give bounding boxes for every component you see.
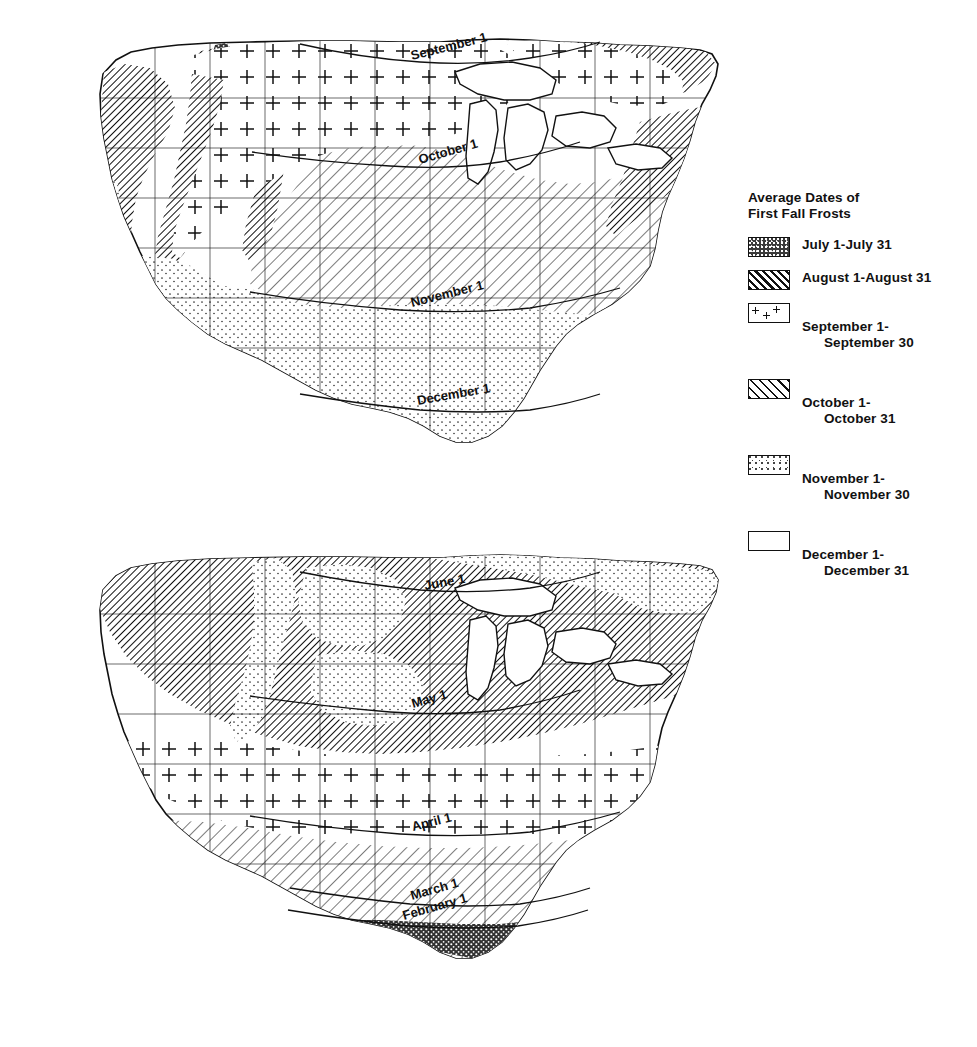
spring-map-regions — [80, 548, 740, 1028]
legend-label: September 1- September 30 — [802, 302, 914, 367]
legend-label-line2: October 31 — [802, 411, 896, 427]
legend-label-line1: October 1- — [802, 395, 871, 410]
legend-label-line1: November 1- — [802, 471, 885, 486]
legend-label-line2: September 30 — [802, 335, 914, 351]
swatch-september-pattern-icon — [748, 303, 790, 323]
legend-label: August 1-August 31 — [802, 269, 931, 286]
legend-item-september: September 1- September 30 — [748, 302, 977, 367]
legend-item-july: July 1-July 31 — [748, 236, 977, 258]
spring-frost-map-panel: June 1 May 1 April 1 March 1 February 1 … — [0, 528, 977, 1028]
legend-label: October 1- October 31 — [802, 378, 896, 443]
swatch-november-pattern-icon — [748, 455, 790, 475]
frost-maps-page: September 1 October 1 November 1 Decembe… — [0, 0, 977, 1047]
legend-label-line1: September 1- — [802, 319, 889, 334]
legend-label: July 1-July 31 — [802, 236, 892, 253]
legend-item-october: October 1- October 31 — [748, 378, 977, 443]
spring-frost-map: June 1 May 1 April 1 March 1 February 1 — [0, 528, 740, 1028]
legend-label: November 1- November 30 — [802, 454, 910, 519]
legend-item-august: August 1-August 31 — [748, 269, 977, 291]
swatch-october-pattern-icon — [748, 379, 790, 399]
fall-frost-map-panel: September 1 October 1 November 1 Decembe… — [0, 12, 977, 512]
fall-map-regions — [60, 39, 740, 512]
region-november-westcoast — [88, 176, 120, 282]
swatch-august-pattern-icon — [748, 270, 790, 290]
swatch-july-pattern-icon — [748, 237, 790, 257]
fall-frost-map: September 1 October 1 November 1 Decembe… — [0, 12, 740, 512]
legend-label-line2: November 30 — [802, 487, 910, 503]
legend-item-november: November 1- November 30 — [748, 454, 977, 519]
legend-title: Average Dates of First Fall Frosts — [748, 190, 977, 222]
region-february-florida — [578, 834, 632, 970]
region-february-southwest — [138, 874, 214, 932]
